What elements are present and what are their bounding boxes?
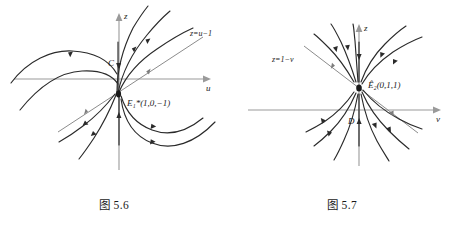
orbit-out-downright-1: [361, 94, 389, 161]
orbit-left-arch-outer: [11, 51, 117, 83]
phase-portrait-right: z v z=1−v Ê₂(0,1,1) D: [228, 0, 456, 200]
orbit-left-arch-inner: [20, 71, 118, 110]
direction-arrow: [372, 122, 377, 128]
caption-figure-5-7: 图 5.7: [228, 196, 456, 212]
phase-portrait-right-svg: z v z=1−v Ê₂(0,1,1) D: [228, 0, 456, 200]
phase-portrait-left: z u z=u−1 E₁*(1,0,−1) C: [0, 0, 228, 200]
invariant-line-label-right: z=1−v: [271, 55, 294, 64]
orbit-down-left-2: [59, 94, 115, 142]
direction-arrow: [116, 63, 121, 69]
figure-5-7: z v z=1−v Ê₂(0,1,1) D 图 5.7: [228, 0, 456, 232]
direction-arrow: [345, 45, 350, 51]
direction-arrow: [393, 59, 398, 65]
orbit-up-right-2: [118, 11, 170, 93]
axis-label-z-left: z: [123, 11, 128, 21]
direction-arrow: [151, 124, 157, 129]
phase-portrait-left-svg: z u z=u−1 E₁*(1,0,−1) C: [0, 0, 228, 200]
direction-arrow: [386, 127, 391, 133]
direction-arrow: [68, 52, 73, 58]
orbit-out-downleft-3: [334, 94, 358, 160]
axis-label-v-right: v: [436, 114, 440, 124]
direction-arrow: [333, 46, 338, 52]
direction-arrow: [116, 112, 121, 118]
u-axis: [14, 76, 211, 83]
invariant-line-label-left: z=u−1: [189, 29, 212, 38]
axis-label-z-right: z: [363, 23, 368, 33]
axis-label-u-left: u: [206, 83, 211, 93]
equilibrium-point-right: [356, 84, 362, 91]
equilibrium-point-left: [116, 91, 121, 98]
direction-arrow: [357, 54, 362, 60]
orbit-down-left-1: [79, 95, 116, 159]
orbit-out-downleft-1: [306, 92, 354, 132]
direction-arrow: [146, 38, 151, 44]
orbit-in-upleft-2: [331, 24, 356, 82]
v-axis: [248, 107, 441, 114]
direction-arrow: [380, 52, 385, 58]
region-label-c: C: [108, 58, 115, 68]
figure-5-6: z u z=u−1 E₁*(1,0,−1) C 图 5.6: [0, 0, 228, 232]
region-label-d: D: [347, 116, 355, 126]
equilibrium-label-left: E₁*(1,0,−1): [126, 98, 170, 108]
caption-figure-5-6: 图 5.6: [0, 196, 228, 212]
direction-arrow: [357, 118, 362, 124]
figure-page: z u z=u−1 E₁*(1,0,−1) C 图 5.6: [0, 0, 456, 232]
equilibrium-label-right: Ê₂(0,1,1): [367, 80, 401, 90]
